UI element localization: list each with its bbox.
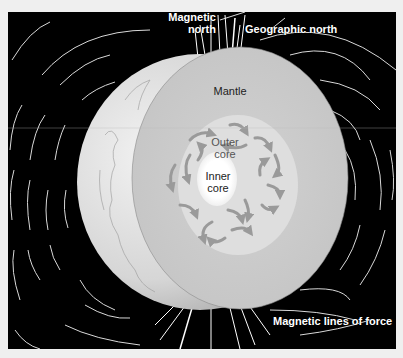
magnetic-lines-of-force-label: Magnetic lines of force xyxy=(273,315,392,327)
geographic-north-label: Geographic north xyxy=(245,23,337,35)
mantle-label: Mantle xyxy=(208,85,252,97)
magnetic-north-line1: Magnetic xyxy=(156,12,216,23)
outer-core-line1: Outer xyxy=(208,136,242,148)
inner-core-label: Inner core xyxy=(201,170,235,194)
outer-core-label: Outer core xyxy=(208,136,242,160)
magnetic-north-line2: north xyxy=(156,23,216,35)
inner-core-line1: Inner xyxy=(201,170,235,182)
magnetic-north-label: Magnetic north xyxy=(156,12,216,35)
diagram-panel: Magnetic north Geographic north Mantle O… xyxy=(8,12,396,349)
inner-core-line2: core xyxy=(201,182,235,194)
outer-core-line2: core xyxy=(208,148,242,160)
